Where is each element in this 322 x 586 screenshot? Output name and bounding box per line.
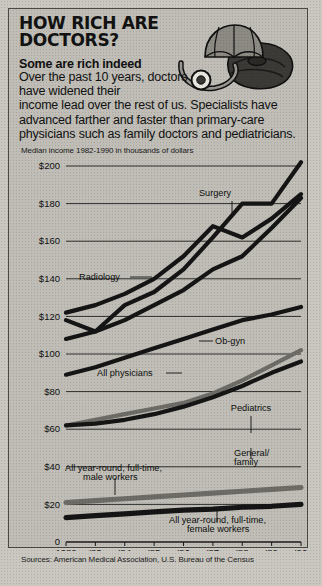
y-axis-tick: $160: [39, 235, 60, 246]
series-annotation-label: Surgery: [199, 188, 232, 198]
y-axis-tick: $20: [44, 499, 60, 510]
series-line: [66, 307, 301, 375]
deck-text: Over the past 10 years, doctors have wid…: [19, 70, 301, 141]
series-annotation-label: All physicians: [97, 368, 153, 378]
page-title: HOW RICH ARE DOCTORS?: [19, 15, 179, 49]
y-axis-tick: $60: [44, 423, 60, 434]
y-axis-tick: $40: [44, 461, 60, 472]
series-annotation-label: Radiology: [79, 272, 120, 282]
source-note: Sources: American Medical Association, U…: [21, 555, 254, 564]
y-axis-tick: $80: [44, 386, 60, 397]
chart-subtitle: Median income 1982-1990 in thousands of …: [21, 146, 193, 155]
infographic-page: HOW RICH ARE DOCTORS? Some are rich inde…: [0, 0, 322, 586]
infographic-card: HOW RICH ARE DOCTORS? Some are rich inde…: [8, 8, 308, 548]
x-axis-tick: '87: [207, 547, 219, 551]
y-axis-tick: $180: [39, 198, 60, 209]
x-axis-tick: '89: [265, 547, 277, 551]
x-axis-tick: '83: [89, 547, 101, 551]
y-axis-tick: $140: [39, 273, 60, 284]
deck-line-1: Over the past 10 years, doctors have wid…: [19, 70, 197, 98]
deck-line-2: income lead over the rest of us. Special…: [19, 98, 296, 140]
series-line: [66, 194, 301, 312]
x-axis-tick: '85: [148, 547, 160, 551]
x-axis-tick: '84: [119, 547, 131, 551]
x-axis-tick: '90: [295, 547, 307, 551]
series-line: [66, 350, 301, 425]
x-axis-tick: '88: [236, 547, 248, 551]
umbrella-icon: [205, 25, 263, 57]
y-axis-tick: $200: [39, 160, 60, 171]
series-annotation-label: male workers: [83, 472, 138, 482]
income-line-chart: 0$20$40$60$80$100$120$140$160$180$200198…: [19, 159, 307, 551]
y-axis-tick: $100: [39, 348, 60, 359]
series-annotation-label: female workers: [187, 524, 250, 534]
series-line: [66, 162, 301, 331]
series-annotation-label: Ob-gyn: [215, 336, 245, 346]
series-annotation-label: family: [234, 457, 258, 467]
x-axis-tick: '86: [177, 547, 189, 551]
kicker-text: Some are rich indeed: [19, 57, 199, 71]
series-line: [66, 487, 301, 502]
y-axis-tick: $120: [39, 311, 60, 322]
series-annotation-label: Pediatrics: [231, 403, 272, 413]
chart-plot-area: 0$20$40$60$80$100$120$140$160$180$200198…: [19, 159, 307, 551]
x-axis-tick: 1982: [55, 547, 76, 551]
y-axis-tick: 0: [55, 536, 60, 547]
